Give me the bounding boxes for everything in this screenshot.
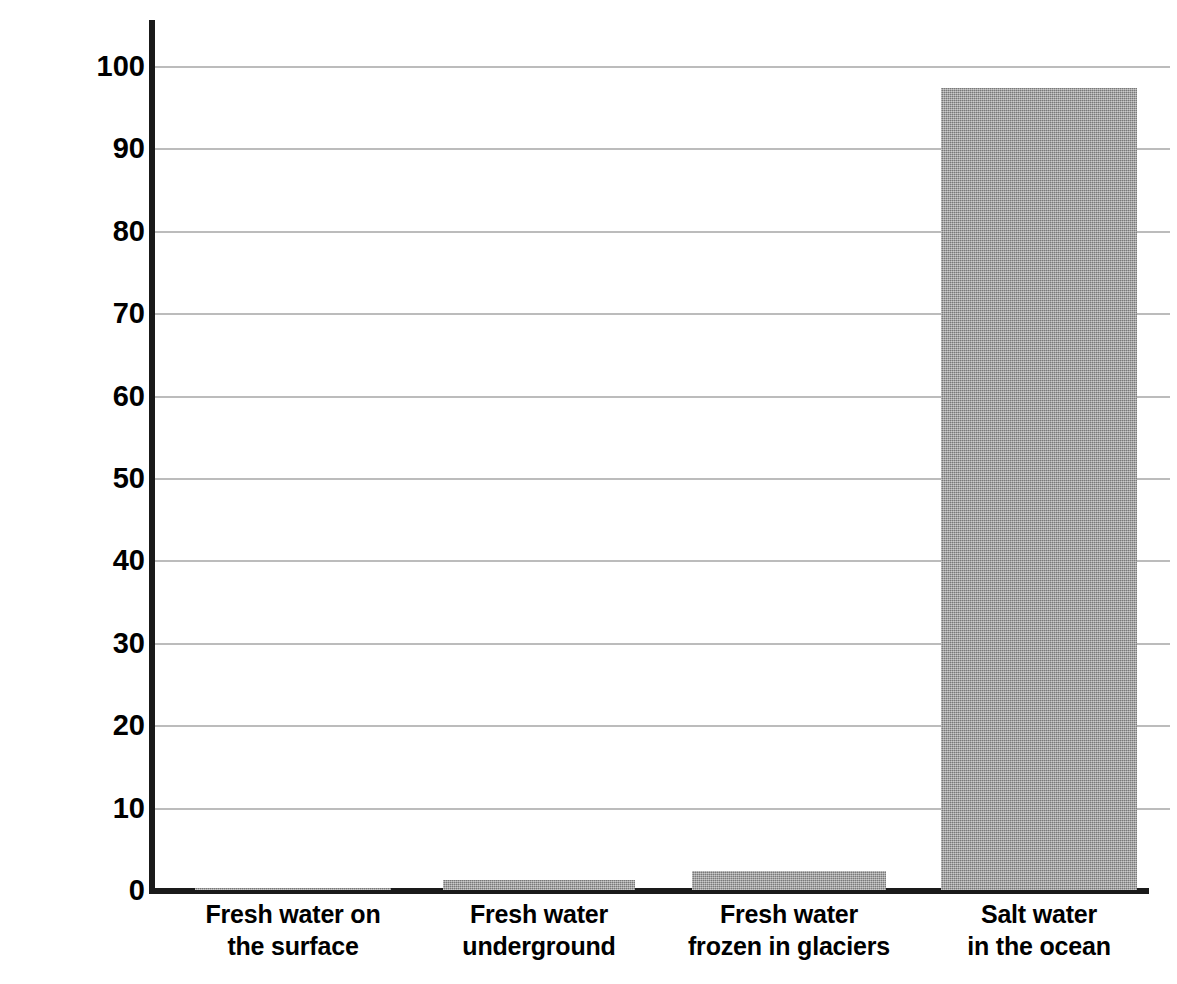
bar — [941, 88, 1137, 890]
bar — [195, 888, 391, 890]
x-axis-category-label-line: Fresh water on — [205, 900, 380, 928]
bar — [692, 871, 886, 890]
x-axis-category-label-line: Fresh water — [470, 900, 608, 928]
x-axis-category-label: Salt water in the ocean — [879, 898, 1177, 962]
x-axis-category-label-line: Salt water — [981, 900, 1097, 928]
bar — [443, 880, 635, 890]
x-axis-category-labels: Fresh water on the surfaceFresh water un… — [0, 898, 1177, 984]
x-axis-category-label-line: in the ocean — [879, 930, 1177, 962]
bars-layer — [0, 0, 1177, 984]
bar-chart: Number of Liters out of 100 010203040506… — [0, 0, 1177, 984]
x-axis-category-label-line: Fresh water — [720, 900, 858, 928]
